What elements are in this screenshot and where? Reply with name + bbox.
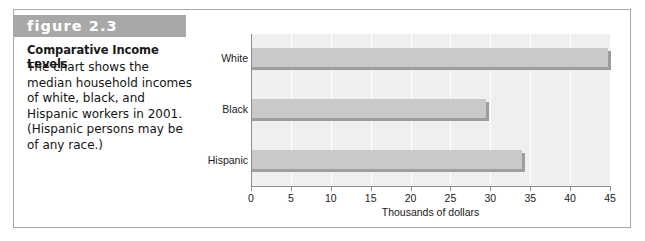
x-tick — [371, 187, 372, 191]
x-tick — [291, 187, 292, 191]
x-tick — [331, 187, 332, 191]
bar — [252, 99, 486, 121]
x-tick-label: 25 — [435, 192, 465, 204]
category-label: White — [221, 52, 248, 64]
x-tick-label: 45 — [595, 192, 625, 204]
x-tick-label: 0 — [236, 192, 266, 204]
x-tick — [570, 187, 571, 191]
figure-description: The chart shows the median household inc… — [27, 60, 193, 154]
x-tick-label: 5 — [276, 192, 306, 204]
x-tick — [251, 187, 252, 191]
bar-chart: 051015202530354045 WhiteBlackHispanic Th… — [204, 10, 631, 229]
x-axis-line — [251, 186, 611, 187]
figure-number-band: figure 2.3 — [14, 15, 186, 37]
x-tick — [530, 187, 531, 191]
x-tick-label: 35 — [515, 192, 545, 204]
x-tick-label: 40 — [555, 192, 585, 204]
bar — [252, 48, 608, 70]
figure-number-label: figure 2.3 — [27, 18, 118, 34]
x-tick-label: 10 — [316, 192, 346, 204]
category-label: Hispanic — [208, 154, 248, 166]
x-tick-label: 20 — [396, 192, 426, 204]
figure-box: figure 2.3 Comparative Income Levels The… — [13, 9, 631, 228]
x-tick — [411, 187, 412, 191]
x-tick-label: 15 — [356, 192, 386, 204]
x-tick — [490, 187, 491, 191]
figure-caption-column: figure 2.3 Comparative Income Levels The… — [14, 10, 204, 229]
x-axis-label: Thousands of dollars — [251, 206, 610, 218]
x-tick — [610, 187, 611, 191]
bar — [252, 150, 522, 172]
x-tick — [450, 187, 451, 191]
category-label: Black — [222, 103, 248, 115]
x-tick-label: 30 — [475, 192, 505, 204]
